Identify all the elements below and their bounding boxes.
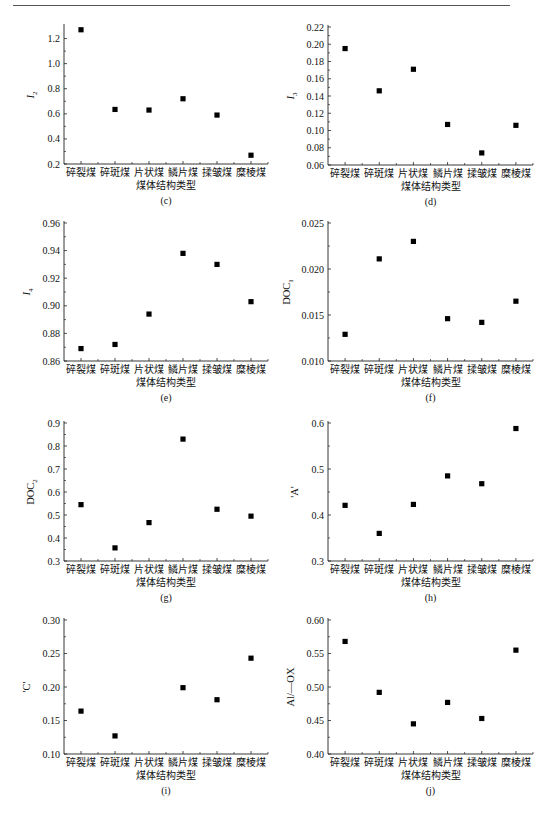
- data-point-marker: [377, 690, 382, 695]
- x-axis-title: 煤体结构类型: [136, 769, 196, 781]
- data-point-marker: [445, 122, 450, 127]
- y-tick-label: 0.90: [43, 300, 61, 311]
- x-category-label: 揉皱煤: [202, 166, 232, 178]
- data-point-marker: [112, 107, 117, 112]
- chart-panel-c: 0.20.40.60.81.01.2碎裂煤碎斑煤片状煤鳞片煤揉皱煤糜棱煤煤体结构…: [0, 0, 278, 210]
- x-category-label: 糜棱煤: [501, 563, 531, 575]
- x-category-label: 碎裂煤: [66, 563, 96, 575]
- x-category-label: 鳞片煤: [433, 363, 463, 375]
- x-category-label: 碎斑煤: [364, 167, 394, 179]
- y-axis-title: I3: [285, 92, 299, 101]
- data-point-marker: [377, 88, 382, 93]
- data-point-marker: [112, 733, 117, 738]
- y-tick-label: 0.18: [307, 56, 325, 67]
- y-tick-label: 0.6: [48, 487, 61, 498]
- x-category-label: 鳞片煤: [168, 166, 198, 178]
- x-category-label: 鳞片煤: [433, 563, 463, 575]
- data-point-marker: [214, 697, 219, 702]
- y-tick-label: 0.4: [312, 510, 325, 521]
- panel-caption: (e): [160, 392, 171, 404]
- x-category-label: 碎斑煤: [100, 563, 130, 575]
- panel-caption: (j): [426, 785, 435, 797]
- data-point-marker: [248, 153, 253, 158]
- chart-panel-j: 0.400.450.500.550.60碎裂煤碎斑煤片状煤鳞片煤揉皱煤糜棱煤煤体…: [278, 614, 556, 819]
- x-category-label: 碎斑煤: [364, 756, 394, 768]
- panel-caption: (f): [426, 392, 436, 404]
- y-tick-label: 0.10: [43, 749, 61, 760]
- data-point-marker: [146, 107, 151, 112]
- x-category-label: 揉皱煤: [202, 756, 232, 768]
- y-tick-label: 0.3: [312, 556, 325, 567]
- y-tick-label: 0.06: [307, 160, 325, 171]
- x-axis-title: 煤体结构类型: [136, 376, 196, 388]
- y-tick-label: 0.4: [48, 133, 61, 144]
- y-tick-label: 0.4: [48, 533, 61, 544]
- x-category-label: 鳞片煤: [168, 756, 198, 768]
- y-axis-title: DOC1: [281, 279, 295, 305]
- x-category-label: 碎斑煤: [364, 563, 394, 575]
- x-category-label: 片状煤: [134, 563, 164, 575]
- panel-caption: (h): [425, 592, 437, 604]
- data-point-marker: [180, 251, 185, 256]
- x-category-label: 糜棱煤: [236, 166, 266, 178]
- chart-panel-f: 0.0100.0150.0200.025碎裂煤碎斑煤片状煤鳞片煤揉皱煤糜棱煤煤体…: [278, 210, 556, 415]
- y-axis-title: Al/—OX: [285, 667, 296, 707]
- x-category-label: 片状煤: [398, 756, 428, 768]
- x-axis-title: 煤体结构类型: [136, 576, 196, 588]
- y-tick-label: 0.08: [307, 142, 325, 153]
- y-axis-title: 'A': [289, 486, 300, 497]
- y-tick-label: 0.96: [43, 218, 61, 229]
- x-category-label: 碎斑煤: [100, 756, 130, 768]
- x-category-label: 糜棱煤: [236, 363, 266, 375]
- y-tick-label: 0.45: [307, 715, 325, 726]
- x-category-label: 碎裂煤: [66, 166, 96, 178]
- y-tick-label: 0.14: [307, 91, 325, 102]
- y-tick-label: 0.8: [48, 441, 61, 452]
- x-category-label: 糜棱煤: [501, 756, 531, 768]
- y-tick-label: 1.2: [48, 33, 61, 44]
- y-tick-label: 0.15: [43, 715, 61, 726]
- x-category-label: 揉皱煤: [467, 563, 497, 575]
- data-point-marker: [411, 502, 416, 507]
- data-point-marker: [248, 299, 253, 304]
- data-point-marker: [479, 716, 484, 721]
- x-category-label: 揉皱煤: [467, 756, 497, 768]
- y-tick-label: 0.20: [307, 39, 325, 50]
- x-category-label: 碎斑煤: [100, 363, 130, 375]
- data-point-marker: [513, 299, 518, 304]
- data-point-marker: [411, 239, 416, 244]
- data-point-marker: [377, 531, 382, 536]
- y-tick-label: 0.25: [43, 648, 61, 659]
- data-point-marker: [78, 346, 83, 351]
- panel-caption: (i): [161, 785, 170, 797]
- x-category-label: 碎裂煤: [330, 167, 360, 179]
- data-point-marker: [479, 481, 484, 486]
- x-category-label: 碎裂煤: [330, 363, 360, 375]
- x-category-label: 揉皱煤: [202, 563, 232, 575]
- y-axis-title: I4: [21, 288, 35, 297]
- y-tick-label: 0.020: [302, 264, 325, 275]
- data-point-marker: [342, 503, 347, 508]
- data-point-marker: [214, 507, 219, 512]
- y-tick-label: 0.88: [43, 328, 61, 339]
- y-tick-label: 0.015: [302, 310, 325, 321]
- y-tick-label: 0.8: [48, 83, 61, 94]
- x-category-label: 糜棱煤: [236, 756, 266, 768]
- x-category-label: 片状煤: [398, 167, 428, 179]
- y-tick-label: 0.3: [48, 556, 61, 567]
- x-category-label: 碎裂煤: [66, 756, 96, 768]
- x-category-label: 糜棱煤: [236, 563, 266, 575]
- x-axis-title: 煤体结构类型: [401, 769, 461, 781]
- x-category-label: 鳞片煤: [168, 563, 198, 575]
- data-point-marker: [78, 709, 83, 714]
- y-tick-label: 0.7: [48, 464, 61, 475]
- x-category-label: 糜棱煤: [501, 167, 531, 179]
- x-category-label: 碎裂煤: [66, 363, 96, 375]
- y-tick-label: 0.20: [43, 682, 61, 693]
- chart-panel-g: 0.30.40.50.60.70.80.9碎裂煤碎斑煤片状煤鳞片煤揉皱煤糜棱煤煤…: [0, 412, 278, 617]
- y-tick-label: 1.0: [48, 58, 61, 69]
- data-point-marker: [112, 342, 117, 347]
- data-point-marker: [180, 685, 185, 690]
- data-point-marker: [513, 426, 518, 431]
- x-category-label: 碎裂煤: [330, 563, 360, 575]
